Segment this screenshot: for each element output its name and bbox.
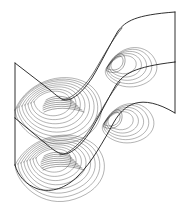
figure-container xyxy=(0,0,190,208)
contour-surface-figure xyxy=(0,0,190,208)
figure-background xyxy=(0,0,190,208)
